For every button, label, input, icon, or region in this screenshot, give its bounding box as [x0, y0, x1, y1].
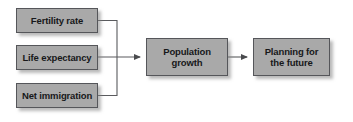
node-population-growth-label: Population growth — [160, 46, 214, 68]
node-life-expectancy: Life expectancy — [16, 45, 98, 70]
node-fertility-rate: Fertility rate — [16, 8, 98, 33]
node-life-expectancy-label: Life expectancy — [19, 52, 94, 63]
connector-fertility-to-growth — [98, 21, 117, 58]
node-population-growth: Population growth — [146, 38, 228, 76]
connector-immigration-to-growth — [98, 57, 117, 96]
node-fertility-rate-label: Fertility rate — [28, 15, 86, 26]
node-net-immigration: Net immigration — [16, 83, 98, 108]
node-planning-future: Planning for the future — [253, 38, 330, 76]
node-net-immigration-label: Net immigration — [19, 90, 95, 101]
node-planning-future-label: Planning for the future — [262, 46, 322, 68]
flowchart-diagram: Fertility rate Life expectancy Net immig… — [0, 0, 353, 122]
